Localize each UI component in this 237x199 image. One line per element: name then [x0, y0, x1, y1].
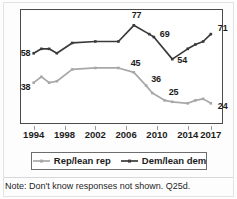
chart-legend: Rep/lean repDem/lean dem: [31, 152, 207, 170]
data-point-marker: [40, 76, 43, 79]
data-point-marker: [202, 98, 205, 101]
data-point-marker: [32, 81, 35, 84]
plot-area: 58776954713845362524: [20, 9, 223, 124]
data-point-marker: [56, 52, 59, 55]
x-axis-tick-label: 2002: [85, 130, 106, 140]
data-value-label: 36: [151, 75, 161, 84]
data-point-marker: [210, 33, 213, 36]
data-value-label: 77: [132, 11, 142, 20]
chart-note: Note: Don't know responses not shown. Q2…: [5, 182, 233, 192]
data-point-marker: [186, 48, 189, 51]
x-axis-tick-label: 2010: [146, 130, 167, 140]
data-point-marker: [153, 36, 156, 39]
x-axis-tick-label: 1994: [23, 130, 44, 140]
data-point-marker: [194, 99, 197, 102]
data-point-marker: [48, 81, 51, 84]
data-point-marker: [71, 68, 74, 71]
data-point-marker: [94, 40, 97, 43]
legend-line-icon: [120, 157, 139, 165]
data-point-marker: [186, 102, 189, 105]
data-value-label: 38: [21, 83, 31, 92]
data-point-marker: [32, 52, 35, 55]
x-axis-tick-label: 2006: [116, 130, 137, 140]
legend-item-label: Dem/lean dem: [142, 156, 206, 166]
data-point-marker: [117, 67, 120, 70]
data-point-marker: [171, 58, 174, 61]
x-axis: 1994199820022006201020142017: [20, 126, 223, 142]
legend-line-icon: [32, 157, 51, 165]
data-value-label: 71: [218, 24, 228, 33]
series-line: [34, 25, 211, 59]
data-point-marker: [194, 43, 197, 46]
data-point-marker: [145, 84, 148, 87]
data-value-label: 54: [177, 56, 187, 65]
data-value-label: 24: [218, 102, 228, 111]
x-axis-tick-label: 2014: [177, 130, 198, 140]
data-point-marker: [171, 101, 174, 104]
data-point-marker: [151, 92, 154, 95]
chart-figure: 58776954713845362524 1994199820022006201…: [0, 0, 237, 199]
x-axis-tick-label: 2017: [200, 130, 221, 140]
data-point-marker: [202, 40, 205, 43]
data-point-marker: [133, 71, 136, 74]
data-point-marker: [133, 24, 136, 27]
legend-item: Rep/lean rep: [32, 156, 111, 166]
data-point-marker: [71, 42, 74, 45]
data-point-marker: [148, 33, 151, 36]
data-value-label: 58: [21, 49, 31, 58]
data-value-label: 25: [169, 88, 179, 97]
data-point-marker: [117, 40, 120, 43]
data-point-marker: [40, 48, 43, 51]
line-chart-svg: [20, 9, 223, 124]
series-line: [34, 68, 211, 103]
data-value-label: 69: [160, 30, 170, 39]
data-point-marker: [48, 48, 51, 51]
legend-item-label: Rep/lean rep: [54, 156, 111, 166]
note-divider: [4, 177, 233, 178]
series-rep: [32, 67, 212, 105]
data-point-marker: [56, 80, 59, 83]
data-point-marker: [163, 99, 166, 102]
data-point-marker: [94, 67, 97, 70]
data-point-marker: [210, 102, 213, 105]
legend-item: Dem/lean dem: [120, 156, 206, 166]
data-value-label: 45: [131, 59, 141, 68]
x-axis-tick-label: 1998: [54, 130, 75, 140]
